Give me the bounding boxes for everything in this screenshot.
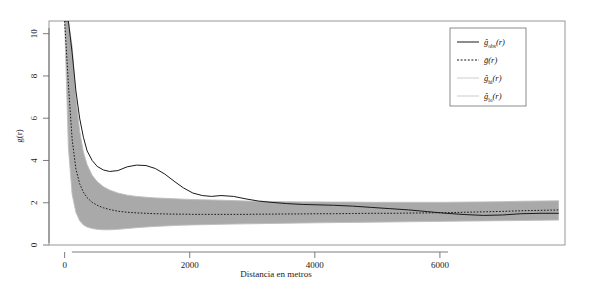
x-tick-label: 2000 [181,260,200,270]
y-tick-label: 6 [29,115,39,120]
y-tick-label: 10 [29,29,39,39]
y-axis-ticks: 0246810 [29,29,49,248]
x-axis-ticks: 0200040006000 [62,252,449,270]
legend-label-1: ḡ(r) [484,55,497,65]
x-axis-title: Distancia en metros [240,269,312,279]
x-tick-label: 0 [62,260,67,270]
y-tick-label: 8 [29,73,39,78]
legend: ĝobs(r)ḡ(r)ĝhi(r)ĝlo(r) [450,28,526,106]
chart-figure: 0246810 0200040006000 g(r) Distancia en … [0,0,589,297]
y-tick-label: 0 [29,242,39,247]
y-axis-title: g(r) [14,129,24,143]
y-tick-label: 2 [29,200,39,205]
y-tick-label: 4 [29,158,39,163]
pair-correlation-plot: 0246810 0200040006000 g(r) Distancia en … [0,0,589,297]
x-tick-label: 6000 [431,260,450,270]
